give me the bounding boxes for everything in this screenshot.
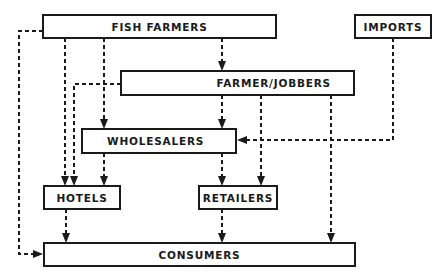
arrowhead-icon	[33, 250, 43, 258]
node-label: FARMER/JOBBERS	[216, 77, 331, 89]
node-label: RETAILERS	[203, 192, 273, 204]
node-label: HOTELS	[56, 192, 107, 204]
node-retailers: RETAILERS	[198, 185, 278, 210]
distribution-flow-diagram: FISH FARMERS IMPORTS FARMER/JOBBERS WHOL…	[0, 0, 446, 280]
node-wholesalers: WHOLESALERS	[81, 128, 237, 154]
arrowhead-icon	[237, 136, 247, 144]
node-label: WHOLESALERS	[107, 135, 204, 147]
node-fish-farmers: FISH FARMERS	[42, 14, 277, 39]
node-label: CONSUMERS	[159, 249, 241, 261]
node-hotels: HOTELS	[43, 185, 121, 210]
node-consumers: CONSUMERS	[43, 242, 356, 267]
node-label: FISH FARMERS	[111, 21, 207, 33]
node-farmer-jobbers: FARMER/JOBBERS	[120, 70, 355, 96]
node-imports: IMPORTS	[354, 14, 432, 39]
node-label: IMPORTS	[364, 21, 423, 33]
edge-fishfarmers-consumers	[19, 31, 43, 254]
